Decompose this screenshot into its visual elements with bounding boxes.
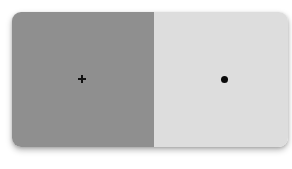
right-panel bbox=[154, 12, 288, 147]
left-panel bbox=[12, 12, 154, 147]
plus-icon bbox=[78, 75, 86, 83]
dot-icon bbox=[221, 76, 228, 83]
stimulus-card bbox=[12, 12, 288, 147]
